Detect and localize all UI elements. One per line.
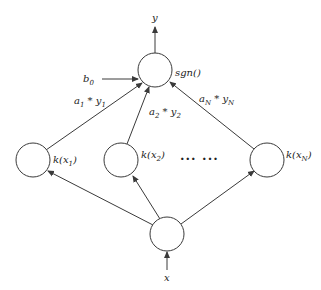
sgn-label: sgn() [175,67,201,78]
kernel-node-1 [16,143,50,177]
output-label-y: y [151,12,158,23]
svm-network-diagram: y b0 a1 * y1 a2 * y2 aN * yN x sgn() k(x… [0,0,321,290]
sgn-node [138,53,172,87]
input-label-x: x [164,272,170,283]
kernel-node-2 [104,143,138,177]
edge-x-to-k1 [48,171,153,225]
edge-label-aN-yN: aN * yN [199,93,235,107]
ellipsis: ··· ··· [180,151,219,166]
input-node [150,217,184,251]
edge-k1-to-sgn [46,83,142,150]
kernel-label-N: k(xN) [286,149,312,163]
edge-x-to-kN [181,171,254,224]
edge-x-to-k2 [133,176,160,219]
edge-label-a2-y2: a2 * y2 [149,106,181,120]
bias-label: b0 [83,73,94,87]
edge-label-a1-y1: a1 * y1 [74,95,106,109]
kernel-label-1: k(x1) [53,154,77,168]
kernel-node-N [250,143,284,177]
kernel-label-2: k(x2) [141,149,165,163]
edge-k2-to-sgn [127,87,149,144]
